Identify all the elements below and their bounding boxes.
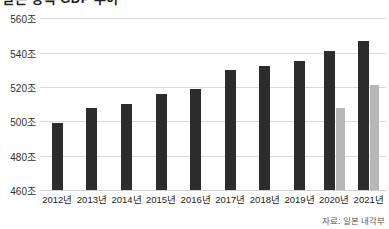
x-axis-tick-label: 2014년 bbox=[111, 192, 141, 206]
bar-nominal-gdp bbox=[190, 89, 201, 190]
chart-title-cutoff: 일본 명목 GDP 추이 bbox=[0, 0, 389, 7]
y-axis-tick-label: 480조 bbox=[10, 148, 36, 163]
bar-group bbox=[259, 8, 270, 190]
bar-nominal-gdp bbox=[294, 61, 305, 190]
bar-nominal-gdp bbox=[324, 51, 335, 190]
x-axis-tick-label: 2016년 bbox=[181, 192, 211, 206]
bar-secondary bbox=[370, 85, 379, 190]
bar-group bbox=[86, 8, 97, 190]
bar-group bbox=[294, 8, 305, 190]
bar-group bbox=[190, 8, 201, 190]
bar-nominal-gdp bbox=[156, 94, 167, 190]
x-axis: 2012년2013년2014년2015년2016년2017년2018년2019년… bbox=[40, 192, 386, 208]
bar-group bbox=[121, 8, 132, 190]
bar-nominal-gdp bbox=[52, 123, 63, 190]
bar-group bbox=[225, 8, 236, 190]
x-axis-tick-label: 2020년 bbox=[319, 192, 349, 206]
y-axis-tick-label: 540조 bbox=[10, 45, 36, 60]
x-axis-tick-label: 2013년 bbox=[77, 192, 107, 206]
bar-secondary bbox=[336, 108, 345, 190]
y-axis-tick-label: 500조 bbox=[10, 114, 36, 129]
bar-nominal-gdp bbox=[121, 104, 132, 190]
x-axis-tick-label: 2019년 bbox=[284, 192, 314, 206]
bar-nominal-gdp bbox=[358, 41, 369, 190]
gridline bbox=[40, 190, 386, 191]
x-axis-tick-label: 2021년 bbox=[354, 192, 384, 206]
bar-group bbox=[324, 8, 345, 190]
bar-nominal-gdp bbox=[225, 70, 236, 190]
x-axis-tick-label: 2012년 bbox=[42, 192, 72, 206]
gdp-bar-chart: 일본 명목 GDP 추이 560조540조520조500조480조460조 20… bbox=[0, 0, 389, 229]
bar-nominal-gdp bbox=[259, 66, 270, 190]
bar-group bbox=[156, 8, 167, 190]
y-axis-tick-label: 560조 bbox=[10, 11, 36, 26]
x-axis-tick-label: 2017년 bbox=[215, 192, 245, 206]
bar-group bbox=[358, 8, 379, 190]
y-axis-tick-label: 520조 bbox=[10, 79, 36, 94]
y-axis-tick-label: 460조 bbox=[10, 183, 36, 198]
bar-group bbox=[52, 8, 63, 190]
x-axis-tick-label: 2018년 bbox=[250, 192, 280, 206]
bar-nominal-gdp bbox=[86, 108, 97, 190]
plot-area bbox=[40, 8, 386, 190]
chart-title: 일본 명목 GDP 추이 bbox=[2, 0, 119, 7]
source-note: 자료: 일본 내각부 bbox=[322, 214, 385, 226]
x-axis-tick-label: 2015년 bbox=[146, 192, 176, 206]
y-axis: 560조540조520조500조480조460조 bbox=[0, 8, 36, 190]
